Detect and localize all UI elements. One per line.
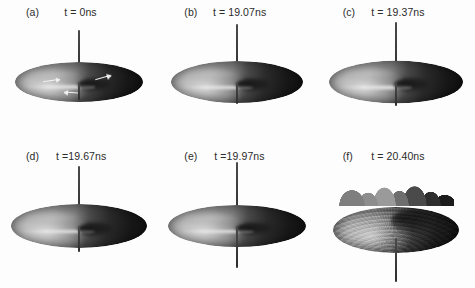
spike-down-icon xyxy=(395,238,397,282)
panel-e-stage xyxy=(166,178,308,274)
panel-f-time-label: t = 20.40ns xyxy=(371,150,424,162)
panel-b-time-label: t = 19.07ns xyxy=(213,6,266,18)
panel-f-stage xyxy=(325,178,467,274)
panel-b-stage xyxy=(166,34,308,130)
turbulent-crown-silhouette xyxy=(338,180,454,206)
panel-f-scene xyxy=(317,166,475,286)
panel-a-tag: (a) xyxy=(26,6,39,18)
panel-e-tag: (e) xyxy=(184,150,197,162)
panel-c-time-label: t = 19.37ns xyxy=(371,6,424,18)
panel-b-tag: (b) xyxy=(184,6,197,18)
panel-d-time-label: t =19.67ns xyxy=(56,150,106,162)
spike-down-icon xyxy=(236,82,238,104)
spike-down-icon xyxy=(395,82,397,106)
panel-b-caption: (b) t = 19.07ns xyxy=(158,6,316,22)
spike-down-icon xyxy=(78,82,80,100)
panel-c-stage xyxy=(325,34,467,130)
panel-d-tag: (d) xyxy=(26,150,39,162)
panel-grid: (a) t = 0ns xyxy=(0,0,475,288)
panel-b-scene xyxy=(158,22,316,142)
figure-panel-grid: (a) t = 0ns xyxy=(0,0,475,288)
panel-e-time-label: t =19.97ns xyxy=(214,150,264,162)
panel-c-caption: (c) t = 19.37ns xyxy=(317,6,475,22)
panel-d-stage xyxy=(8,178,150,274)
panel-f-tag: (f) xyxy=(343,150,353,162)
panel-e-scene xyxy=(158,166,316,286)
panel-f-caption: (f) t = 20.40ns xyxy=(317,150,475,166)
spike-down-icon xyxy=(78,226,80,252)
panel-a: (a) t = 0ns xyxy=(0,0,158,144)
spike-down-icon xyxy=(236,226,238,268)
panel-c: (c) t = 19.37ns xyxy=(317,0,475,144)
panel-a-scene xyxy=(0,22,158,142)
panel-e: (e) t =19.97ns xyxy=(158,144,316,288)
panel-d-scene xyxy=(0,166,158,286)
panel-c-scene xyxy=(317,22,475,142)
panel-a-stage xyxy=(8,34,150,130)
panel-a-caption: (a) t = 0ns xyxy=(0,6,158,22)
panel-a-time-label: t = 0ns xyxy=(64,6,97,18)
panel-d: (d) t =19.67ns xyxy=(0,144,158,288)
panel-c-tag: (c) xyxy=(343,6,356,18)
panel-f: (f) t = 20.40ns xyxy=(317,144,475,288)
panel-d-caption: (d) t =19.67ns xyxy=(0,150,158,166)
panel-b: (b) t = 19.07ns xyxy=(158,0,316,144)
